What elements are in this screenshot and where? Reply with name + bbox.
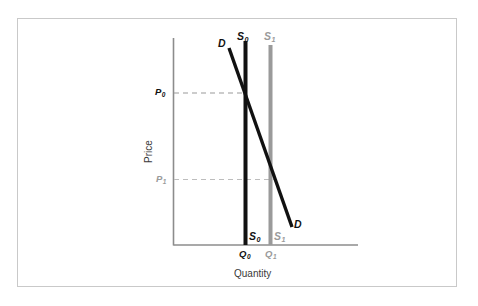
demand-curve bbox=[229, 48, 292, 227]
price1-tick-sub: 1 bbox=[163, 178, 167, 185]
supply1-top-label: S1 bbox=[264, 31, 275, 42]
demand-top-label: D bbox=[218, 38, 226, 49]
quantity0-tick-label: Q0 bbox=[239, 249, 250, 259]
quantity0-tick-main: Q bbox=[239, 248, 246, 259]
supply1-bottom-label: S1 bbox=[274, 231, 285, 242]
price1-tick-main: P bbox=[156, 173, 162, 184]
quantity1-tick-sub: 1 bbox=[273, 253, 277, 260]
supply1-top-label-sub: 1 bbox=[272, 36, 276, 44]
price0-tick-label: P0 bbox=[155, 87, 165, 97]
price0-tick-sub: 0 bbox=[162, 91, 166, 98]
quantity1-tick-main: Q bbox=[265, 248, 272, 259]
supply0-bottom-label: S0 bbox=[249, 231, 260, 242]
price1-tick-label: P1 bbox=[156, 174, 166, 184]
price0-tick-main: P bbox=[155, 86, 161, 97]
figure-container: D D S0 S1 S0 S1 P0 P1 Q0 Q1 Price Quanti… bbox=[0, 0, 478, 306]
supply1-top-label-main: S bbox=[264, 30, 271, 42]
supply1-bottom-label-main: S bbox=[274, 230, 281, 242]
quantity0-tick-sub: 0 bbox=[247, 253, 251, 260]
supply0-top-label: S0 bbox=[237, 31, 248, 42]
demand-bottom-label: D bbox=[294, 219, 302, 230]
x-axis-title: Quantity bbox=[234, 269, 271, 279]
supply0-top-label-sub: 0 bbox=[245, 36, 249, 44]
supply1-bottom-label-sub: 1 bbox=[282, 236, 286, 244]
y-axis-title: Price bbox=[144, 140, 154, 163]
chart-canvas bbox=[0, 0, 478, 306]
supply0-top-label-main: S bbox=[237, 30, 244, 42]
quantity1-tick-label: Q1 bbox=[265, 249, 276, 259]
supply0-bottom-label-sub: 0 bbox=[257, 236, 261, 244]
supply0-bottom-label-main: S bbox=[249, 230, 256, 242]
